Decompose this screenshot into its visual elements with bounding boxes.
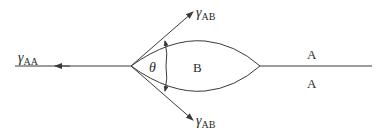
dihedral-angle-label: θ: [149, 61, 156, 75]
grain-a-bottom-label: A: [307, 77, 316, 90]
angle-arc-lower-icon: [165, 66, 167, 91]
diagram-canvas: [0, 0, 384, 133]
gamma-aa-label: γAA: [18, 51, 38, 65]
phase-b-label: B: [193, 61, 202, 74]
gamma-ab-bottom-label: γAB: [196, 114, 215, 128]
grain-a-top-label: A: [307, 48, 316, 61]
gamma-ab-top-label: γAB: [196, 6, 215, 20]
gamma-ab-top-arrow-icon: [131, 12, 193, 66]
gamma-ab-bottom-arrow-icon: [131, 66, 193, 120]
angle-arc-icon: [165, 41, 167, 66]
